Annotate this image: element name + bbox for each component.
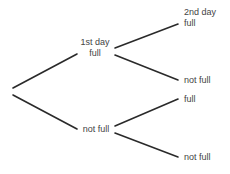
branch-root-to-first-full bbox=[13, 54, 77, 88]
node-second-day-full: 2nd day full bbox=[184, 7, 230, 29]
branch-full-to-not-full bbox=[115, 55, 178, 80]
branch-not-full-to-not-full bbox=[115, 133, 178, 157]
branch-not-full-to-full bbox=[115, 99, 178, 126]
node-first-day-full: 1st day full bbox=[74, 37, 116, 59]
node-second-b-full: full bbox=[184, 94, 230, 105]
first-day-header: 1st day bbox=[74, 37, 116, 48]
node-second-b-not-full: not full bbox=[184, 152, 230, 163]
second-a-full-label: full bbox=[184, 18, 230, 29]
branch-full-to-full bbox=[115, 24, 178, 48]
second-day-header: 2nd day bbox=[184, 7, 230, 18]
first-full-label: full bbox=[74, 48, 116, 59]
node-first-not-full: not full bbox=[76, 124, 116, 135]
branch-root-to-first-not-full bbox=[13, 95, 77, 129]
node-second-a-not-full: not full bbox=[184, 75, 230, 86]
